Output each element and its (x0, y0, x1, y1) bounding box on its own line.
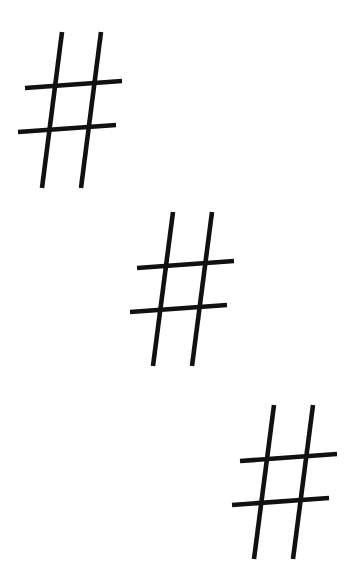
hash-glyph-group (0, 0, 355, 567)
drawing-canvas (0, 0, 355, 567)
